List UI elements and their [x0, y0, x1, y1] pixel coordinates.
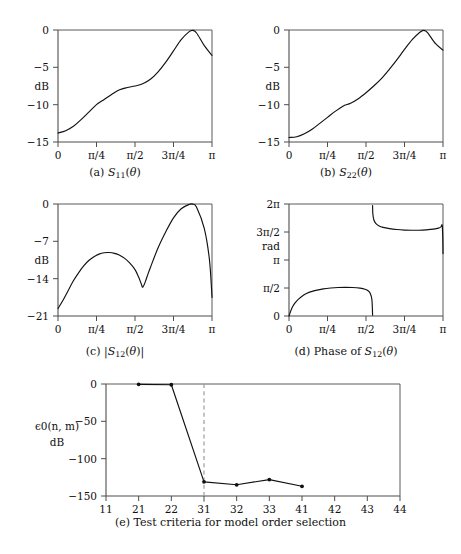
figure-multipanel-s-parameters: 0 −5 −10 −15 dB 0 π/4 π/2 3π/4 π (a) S11… — [0, 0, 461, 554]
panel-e-marker-41 — [300, 484, 304, 488]
panel-c-ytick-2: −14 — [27, 273, 49, 285]
panel-e-ytick-3: −150 — [68, 490, 97, 502]
panel-e-xtick-8: 43 — [361, 503, 374, 515]
panel-a-ytick-2: −10 — [27, 99, 49, 111]
panel-d-curve-branch2 — [373, 205, 443, 253]
panel-a-caption-prefix: (a) — [89, 166, 104, 179]
panel-a-xtick-2: π/2 — [126, 149, 143, 161]
panel-e-xtick-1: 21 — [132, 503, 145, 515]
panel-b-s22: 0 −5 −10 −15 dB 0 π/4 π/2 3π/4 π — [231, 8, 461, 158]
panel-a-x-ticks — [58, 142, 212, 147]
panel-d-curve-branch1 — [289, 287, 373, 316]
panel-d-caption: (d) Phase of S12(θ) — [231, 345, 461, 359]
panel-e-ytick-2: −100 — [68, 453, 97, 465]
panel-d-ylabel: rad — [262, 240, 280, 252]
panel-b-xtick-2: π/2 — [357, 149, 374, 161]
panel-e-xtick-7: 42 — [328, 503, 341, 515]
panel-a-ytick-1: −5 — [34, 61, 49, 73]
panel-c-x-ticks — [58, 316, 212, 321]
panel-c-s12-mag: 0 −7 −14 −21 dB 0 π/4 π/2 3π/4 π — [0, 190, 230, 336]
panel-e-data-markers — [137, 382, 304, 488]
panel-e-marker-33 — [267, 478, 271, 482]
panel-c-xtick-0: 0 — [55, 323, 62, 335]
panel-b-ytick-0: 0 — [273, 24, 280, 36]
panel-b-ytick-2: −10 — [258, 99, 280, 111]
panel-d-xtick-4: π — [440, 323, 447, 335]
panel-e-xtick-4: 32 — [230, 503, 243, 515]
panel-e-caption-prefix: (e) — [115, 516, 130, 529]
panel-b-plot: 0 −5 −10 −15 dB 0 π/4 π/2 3π/4 π — [231, 8, 461, 158]
panel-b-xtick-3: 3π/4 — [393, 149, 417, 161]
panel-b-curve — [289, 30, 443, 137]
panel-b-ytick-1: −5 — [265, 61, 280, 73]
panel-d-ytick-2: π — [273, 254, 280, 266]
panel-a-curve — [58, 30, 212, 133]
panel-b-caption: (b) S22(θ) — [231, 166, 461, 180]
panel-a-ytick-3: −15 — [27, 136, 49, 148]
panel-e-x-ticks — [106, 496, 400, 501]
panel-e-marker-22 — [169, 383, 173, 387]
panel-a-xtick-1: π/4 — [88, 149, 105, 161]
panel-b-caption-prefix: (b) — [320, 166, 336, 179]
panel-e-ylabel-unit: dB — [50, 436, 65, 448]
panel-e-x-ticklabels: 11212231323341424344 — [99, 503, 407, 515]
panel-e-marker-21 — [137, 382, 141, 386]
panel-a-xtick-0: 0 — [55, 149, 62, 161]
panel-e-xtick-5: 33 — [263, 503, 276, 515]
panel-e-ytick-0: 0 — [90, 378, 97, 390]
panel-a-ytick-0: 0 — [42, 24, 49, 36]
panel-d-xtick-2: π/2 — [357, 323, 374, 335]
panel-e-xtick-2: 22 — [165, 503, 178, 515]
panel-e-test-criteria: 0 −50 −100 −150 ϵ0(n, m) dB 112122313233… — [0, 372, 461, 512]
panel-d-ytick-0: 2π — [266, 198, 280, 210]
panel-d-ytick-3: π/2 — [263, 282, 280, 294]
panel-c-caption-prefix: (c) — [86, 345, 101, 358]
panel-c-ylabel: dB — [35, 254, 50, 266]
panel-e-caption: (e) (e) Test criteria for model order se… — [0, 516, 461, 529]
panel-d-y-ticks — [284, 204, 289, 316]
panel-d-s12-phase: 2π 3π/2 π π/2 0 rad 0 π/4 π/2 3π/4 π — [231, 190, 461, 336]
panel-e-curve — [139, 384, 302, 486]
panel-d-xtick-0: 0 — [286, 323, 293, 335]
panel-e-marker-31 — [202, 480, 206, 484]
panel-b-xtick-1: π/4 — [319, 149, 336, 161]
panel-c-curve — [58, 204, 212, 309]
panel-c-xtick-4: π — [209, 323, 216, 335]
panel-e-caption-body: Test criteria for model order selection — [134, 516, 347, 529]
panel-b-y-ticks — [284, 30, 289, 142]
panel-a-ylabel: dB — [35, 80, 50, 92]
panel-e-xtick-0: 11 — [99, 503, 112, 515]
panel-a-y-ticks — [53, 30, 58, 142]
panel-e-xtick-3: 31 — [197, 503, 210, 515]
panel-b-ylabel: dB — [266, 80, 281, 92]
panel-d-ytick-4: 0 — [273, 310, 280, 322]
panel-e-marker-32 — [235, 483, 239, 487]
panel-c-xtick-1: π/4 — [88, 323, 105, 335]
panel-e-xtick-6: 41 — [295, 503, 308, 515]
panel-c-xtick-2: π/2 — [126, 323, 143, 335]
panel-c-y-ticks — [53, 204, 58, 316]
panel-b-xtick-4: π — [440, 149, 447, 161]
panel-a-xtick-4: π — [209, 149, 216, 161]
panel-c-plot: 0 −7 −14 −21 dB 0 π/4 π/2 3π/4 π — [0, 190, 230, 336]
panel-c-ytick-3: −21 — [27, 310, 49, 322]
panel-e-xtick-9: 44 — [393, 503, 407, 515]
panel-c-ytick-1: −7 — [34, 235, 49, 247]
panel-a-s11: 0 −5 −10 −15 dB 0 π/4 π/2 3π/4 π — [0, 8, 230, 158]
panel-a-caption: (a) S11(θ) — [0, 166, 230, 180]
panel-e-ylabel-main: ϵ0(n, m) — [35, 420, 79, 432]
panel-b-xtick-0: 0 — [286, 149, 293, 161]
panel-d-ytick-1: 3π/2 — [256, 226, 280, 238]
panel-e-y-ticks — [101, 384, 106, 496]
panel-d-xtick-3: 3π/4 — [393, 323, 417, 335]
panel-d-x-ticks — [289, 316, 443, 321]
panel-d-caption-word: Phase of — [314, 345, 361, 358]
panel-d-caption-prefix: (d) — [295, 345, 311, 358]
panel-d-plot: 2π 3π/2 π π/2 0 rad 0 π/4 π/2 3π/4 π — [231, 190, 461, 336]
panel-b-x-ticks — [289, 142, 443, 147]
panel-a-xtick-3: 3π/4 — [162, 149, 186, 161]
panel-c-caption: (c) |S12(θ)| — [0, 345, 230, 359]
panel-c-xtick-3: 3π/4 — [162, 323, 186, 335]
panel-c-ytick-0: 0 — [42, 198, 49, 210]
panel-b-ytick-3: −15 — [258, 136, 280, 148]
